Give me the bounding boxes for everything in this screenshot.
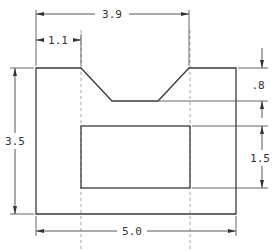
- dim-label-notch-depth: .8: [251, 79, 264, 92]
- dim-label-overall-height: 3.5: [5, 135, 25, 148]
- hidden-lines: [81, 30, 190, 251]
- dimension-notch-depth: .8: [251, 48, 264, 118]
- dimension-slot-height: 1.5: [247, 126, 273, 188]
- part-outline: [36, 68, 236, 214]
- dim-label-overall-width: 5.0: [122, 225, 142, 238]
- dimension-notch-offset: 1.1: [36, 34, 81, 47]
- dim-label-notch-offset: 1.1: [48, 34, 68, 47]
- dim-label-slot-height: 1.5: [250, 152, 270, 165]
- dim-label-notch-span: 3.9: [102, 8, 122, 21]
- dimension-overall-width: 5.0: [36, 223, 236, 239]
- dimension-notch-span: 3.9: [36, 6, 189, 21]
- inner-slot: [81, 126, 190, 188]
- technical-drawing: 3.9 1.1 3.5 .8 1.5 5.0: [0, 0, 278, 251]
- dimension-overall-height: 3.5: [3, 68, 27, 214]
